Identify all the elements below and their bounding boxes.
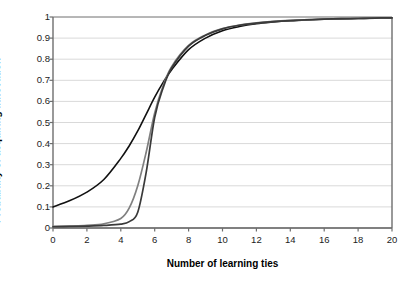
data-curve [53,18,392,207]
plot-area [0,0,416,281]
gridline-group [53,17,392,228]
x-axis-title: Number of learning ties [53,258,392,269]
chart-figure: Probability of acquiring innovation 00.1… [0,0,416,281]
tick-mark-group [50,17,393,232]
